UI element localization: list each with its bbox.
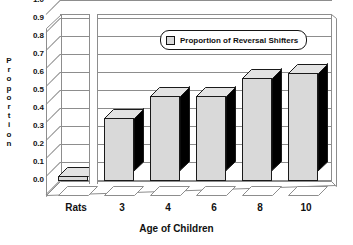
y-axis-tick-label: 0.0 [33,176,44,184]
y-axis-title-letter: o [2,93,16,102]
bar-base [242,181,282,196]
gridline-depth-connector [46,0,61,15]
y-axis-title-letter: i [2,120,16,129]
y-axis-tick-label: 0.5 [33,86,44,94]
y-axis-title-letter: o [2,130,16,139]
bar-front-face [104,118,134,181]
bar[interactable] [196,96,226,181]
y-axis-tick-labels: 1.00.90.80.70.60.50.40.30.20.10.0 [18,0,44,245]
y-axis-tick-label: 0.8 [33,32,44,40]
x-axis-tick-label: Rats [50,202,102,214]
bar-side-face [180,86,189,181]
bar-chart: P r o p o r t i o n 1.00.90.80.70.60.50.… [0,0,353,245]
y-axis-title-letter: o [2,74,16,83]
y-axis-tick-label: 0.9 [33,14,44,22]
bar-base [104,181,144,196]
y-axis-title: P r o p o r t i o n [2,56,16,148]
y-axis-title-letter: t [2,111,16,120]
bar[interactable] [58,176,88,181]
chart-legend[interactable]: Proportion of Reversal Shifters [160,30,307,50]
bar-top-face [196,87,236,96]
gridline [60,54,332,55]
x-axis-tick-label: 10 [280,202,332,214]
y-axis-title-letter: n [2,139,16,148]
legend-swatch-icon [166,36,175,45]
gridline [60,0,332,1]
y-axis-tick-label: 0.7 [33,50,44,58]
bar-base [150,181,190,196]
gridline [60,18,332,19]
y-axis-tick-label: 0.4 [33,104,44,112]
x-axis-title: Age of Children [0,223,353,234]
bar-side-face [318,63,327,181]
y-axis-tick-label: 0.2 [33,140,44,148]
bar-side-face [226,86,235,181]
bar[interactable] [150,96,180,181]
plot-right-wall [331,14,336,197]
x-axis-tick-label: 3 [96,202,148,214]
y-axis-tick-label: 0.6 [33,68,44,76]
bar[interactable] [242,78,272,181]
bar-base [288,181,328,196]
axis-break [89,14,98,184]
y-axis-title-letter: r [2,65,16,74]
bar-top-face [288,64,328,73]
bar-front-face [288,73,318,181]
y-axis-title-letter: P [2,56,16,65]
x-axis-tick-labels: Rats346810 [46,202,336,216]
bar[interactable] [288,73,318,181]
bar-front-face [242,78,272,181]
y-axis-tick-label: 0.1 [33,158,44,166]
bar-top-face [104,109,144,118]
y-axis-tick-label: 1.0 [33,0,44,4]
x-axis-tick-label: 4 [142,202,194,214]
y-axis-title-letter: p [2,84,16,93]
bar[interactable] [104,118,134,181]
x-axis-tick-label: 6 [188,202,240,214]
bar-front-face [150,96,180,181]
bar-top-face [242,69,282,78]
legend-label: Proportion of Reversal Shifters [180,36,298,45]
bar-front-face [196,96,226,181]
x-axis-tick-label: 8 [234,202,286,214]
bar-side-face [272,68,281,181]
y-axis-tick-label: 0.3 [33,122,44,130]
y-axis-title-letter: r [2,102,16,111]
bar-base [196,181,236,196]
bar-top-face [150,87,190,96]
